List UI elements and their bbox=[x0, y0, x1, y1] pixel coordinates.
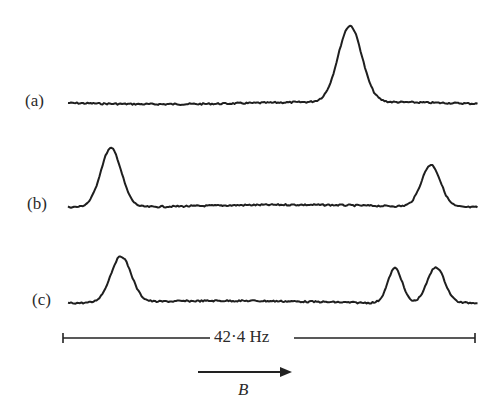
trace-label-a: (a) bbox=[25, 91, 44, 111]
spectrum-trace-b bbox=[68, 148, 478, 208]
trace-label-c: (c) bbox=[32, 290, 51, 310]
trace-group bbox=[68, 26, 478, 304]
field-arrow bbox=[198, 367, 292, 377]
spectra-figure: (a) (b) (c) 42·4 Hz B bbox=[0, 0, 498, 412]
trace-label-b: (b) bbox=[27, 194, 47, 214]
field-axis-label: B bbox=[238, 380, 248, 400]
spectrum-trace-c bbox=[68, 257, 478, 304]
spectra-plot bbox=[0, 0, 498, 412]
scale-bar-label: 42·4 Hz bbox=[210, 327, 273, 347]
spectrum-trace-a bbox=[68, 26, 478, 105]
